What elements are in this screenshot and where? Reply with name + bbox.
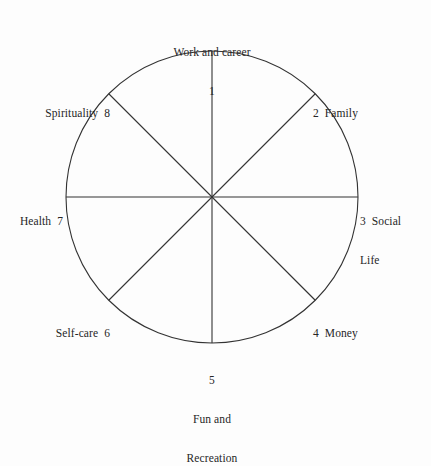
sector-label-text-6: Self-care 6: [0, 327, 110, 340]
sector-label-social-life: 3 Social Life: [360, 189, 430, 293]
sector-label-self-care: Self-care 6: [0, 301, 110, 366]
sector-label-text-4: 4 Money: [313, 327, 423, 340]
sector-label-text-3-line2: Life: [360, 254, 430, 267]
sector-label-text-2: 2 Family: [313, 107, 423, 120]
sector-number-1: 1: [112, 85, 312, 98]
sector-label-spirituality: Spirituality 8: [0, 81, 110, 146]
sector-label-text-1: Work and career: [112, 46, 312, 59]
sector-label-money: 4 Money: [313, 301, 423, 366]
sector-label-text-5-line2: Recreation: [112, 452, 312, 465]
sector-label-text-7: Health 7: [0, 215, 63, 228]
sector-label-fun-and-recreation: 5 Fun and Recreation: [112, 348, 312, 466]
sector-label-text-5-line1: Fun and: [112, 413, 312, 426]
sector-label-text-3-line1: 3 Social: [360, 215, 430, 228]
sector-label-family: 2 Family: [313, 81, 423, 146]
sector-number-5: 5: [112, 374, 312, 387]
sector-label-text-8: Spirituality 8: [0, 107, 110, 120]
sector-label-work-and-career: Work and career 1: [112, 20, 312, 124]
sector-label-health: Health 7: [0, 189, 63, 254]
